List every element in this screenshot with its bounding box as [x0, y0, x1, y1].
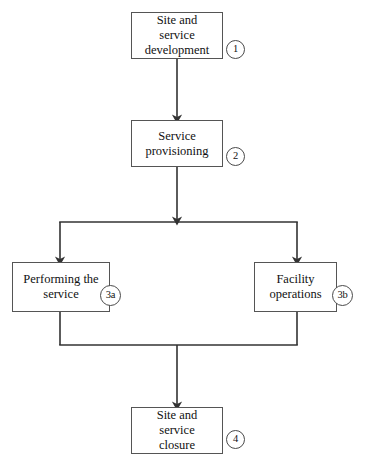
step-marker-4: 4 — [226, 430, 245, 449]
connector-layer — [0, 0, 368, 466]
step-marker-label: 3b — [337, 290, 347, 301]
step-marker-label: 1 — [233, 44, 238, 55]
node-performing-the-service[interactable]: Performing the service — [12, 262, 110, 312]
step-marker-2: 2 — [226, 147, 245, 166]
step-marker-1: 1 — [226, 40, 245, 59]
node-facility-operations[interactable]: Facility operations — [254, 262, 337, 312]
node-label: Site and service closure — [153, 408, 202, 452]
node-label: Performing the service — [19, 272, 102, 302]
node-site-and-service-closure[interactable]: Site and service closure — [131, 407, 223, 454]
step-marker-label: 2 — [233, 151, 238, 162]
node-label: Facility operations — [265, 272, 325, 302]
flowchart-diagram: Site and service development 1 Service p… — [0, 0, 368, 466]
node-label: Service provisioning — [141, 129, 212, 159]
node-site-and-service-development[interactable]: Site and service development — [131, 12, 223, 59]
node-label: Site and service development — [141, 13, 214, 57]
step-marker-label: 4 — [233, 434, 238, 445]
node-service-provisioning[interactable]: Service provisioning — [131, 120, 223, 167]
step-marker-label: 3a — [106, 290, 116, 301]
step-marker-3a: 3a — [100, 285, 121, 306]
step-marker-3b: 3b — [332, 285, 353, 306]
